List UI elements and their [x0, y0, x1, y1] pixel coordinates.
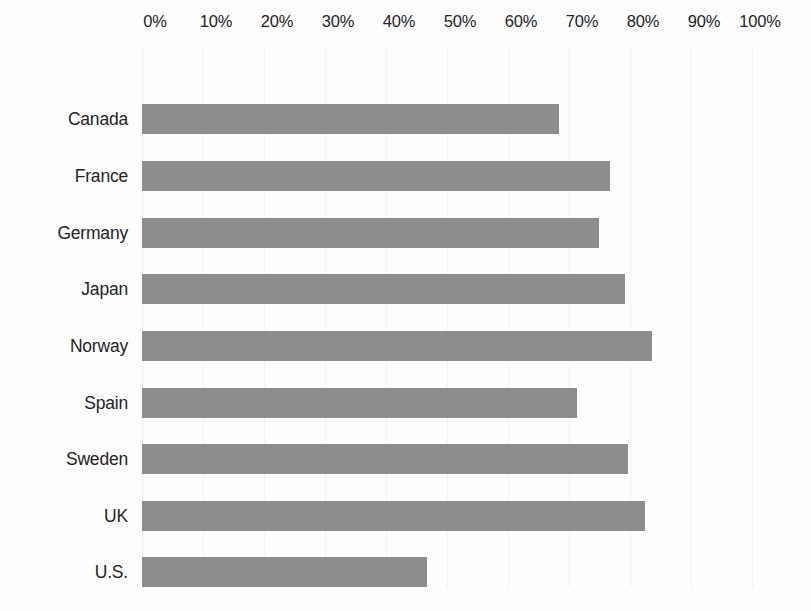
category-label: Spain — [84, 393, 128, 414]
category-label: Germany — [57, 223, 128, 244]
bar — [142, 104, 559, 134]
bar-row: Japan — [0, 274, 811, 304]
bar-row: Norway — [0, 331, 811, 361]
bar-row: U.S. — [0, 557, 811, 587]
category-label: U.S. — [95, 562, 128, 583]
bar-row: France — [0, 161, 811, 191]
bar-rows: Canada France Germany Japan Norway Spain… — [0, 0, 811, 611]
category-label: UK — [104, 506, 128, 527]
category-label: Norway — [70, 336, 128, 357]
bar — [142, 331, 652, 361]
category-label: Japan — [81, 279, 128, 300]
bar-row: Canada — [0, 104, 811, 134]
bar — [142, 218, 599, 248]
bar — [142, 274, 625, 304]
category-label: France — [75, 166, 128, 187]
bar — [142, 388, 577, 418]
category-label: Sweden — [66, 449, 128, 470]
bar — [142, 501, 645, 531]
category-label: Canada — [68, 109, 128, 130]
bar — [142, 444, 628, 474]
bar-row: UK — [0, 501, 811, 531]
bar-row: Spain — [0, 388, 811, 418]
bar-row: Germany — [0, 218, 811, 248]
bar — [142, 557, 427, 587]
bar — [142, 161, 610, 191]
bar-chart: 0% 10% 20% 30% 40% 50% 60% 70% 80% 90% 1… — [0, 0, 811, 611]
bar-row: Sweden — [0, 444, 811, 474]
